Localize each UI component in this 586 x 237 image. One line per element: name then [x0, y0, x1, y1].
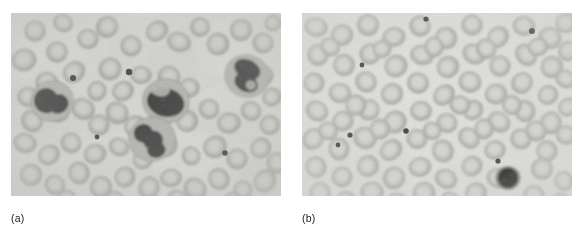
- micrograph-b-canvas: [302, 13, 572, 196]
- panel-a: [11, 13, 281, 196]
- figure-container: (a) (b): [0, 0, 586, 237]
- micrograph-a-canvas: [11, 13, 281, 196]
- panel-b: [302, 13, 572, 196]
- micrograph-a: [11, 13, 281, 196]
- panel-b-caption: (b): [302, 213, 315, 224]
- micrograph-b: [302, 13, 572, 196]
- panel-a-caption: (a): [11, 213, 24, 224]
